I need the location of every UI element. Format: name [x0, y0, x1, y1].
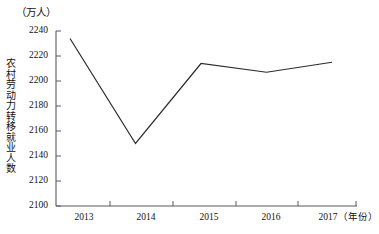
data-series [70, 39, 332, 144]
plot-area [0, 0, 379, 234]
chart-axes [56, 31, 357, 206]
line-chart: （万人） 农村劳动力转移就业人数 21002120214021602180220… [0, 0, 379, 234]
